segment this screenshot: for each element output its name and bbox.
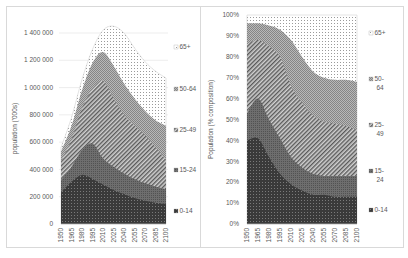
y-tick-label: 800 000: [30, 111, 54, 118]
legend-swatch: [369, 77, 373, 81]
chart-percent-svg: 0%10%20%30%40%50%60%70%80%90%100%Populat…: [201, 7, 405, 249]
x-tick-label: 1950: [243, 228, 250, 243]
legend-swatch: [174, 45, 178, 49]
y-axis-title: population ('000s): [11, 103, 19, 154]
y-tick-label: 1 400 000: [24, 29, 53, 36]
x-tick-label: 2040: [120, 228, 127, 243]
x-tick-label: 2055: [320, 228, 327, 243]
legend-swatch: [369, 208, 373, 212]
y-tick-label: 70%: [226, 74, 239, 81]
x-tick-label: 2055: [131, 228, 138, 243]
legend-label: 65+: [375, 29, 386, 36]
legend-label: 50-: [375, 75, 384, 82]
legend-label: 15-24: [180, 166, 197, 173]
y-tick-label: 1 200 000: [24, 56, 53, 63]
legend-label: 25-: [375, 121, 384, 128]
legend-label: 49: [377, 130, 385, 137]
legend-label: 0-14: [375, 206, 388, 213]
x-tick-label: 2070: [331, 228, 338, 243]
chart-percent-composition: 0%10%20%30%40%50%60%70%80%90%100%Populat…: [200, 6, 404, 248]
legend-label: 50-64: [180, 85, 197, 92]
x-tick-label: 2100: [162, 228, 169, 243]
y-axis-title: Population (% composition): [207, 80, 215, 159]
y-tick-label: 40%: [226, 137, 239, 144]
x-tick-label: 2040: [309, 228, 316, 243]
x-tick-label: 2025: [298, 228, 305, 243]
x-tick-label: 2010: [99, 228, 106, 243]
y-tick-label: 400 000: [30, 166, 54, 173]
y-tick-label: 60%: [226, 95, 239, 102]
chart-absolute-svg: 0200 000400 000600 000800 0001 000 0001 …: [7, 7, 207, 249]
y-tick-label: 1 000 000: [24, 84, 53, 91]
legend-swatch: [174, 128, 178, 132]
x-tick-label: 2070: [141, 228, 148, 243]
legend-label: 15-: [375, 167, 384, 174]
y-tick-label: 20%: [226, 178, 239, 185]
y-tick-label: 600 000: [30, 138, 54, 145]
x-tick-label: 2010: [287, 228, 294, 243]
x-tick-label: 1965: [254, 228, 261, 243]
legend-swatch: [174, 209, 178, 213]
x-tick-label: 1980: [78, 228, 85, 243]
legend-label: 65+: [180, 43, 191, 50]
legend-swatch: [174, 168, 178, 172]
legend-label: 0-14: [180, 207, 193, 214]
legend-swatch: [369, 123, 373, 127]
x-tick-label: 1995: [276, 228, 283, 243]
y-tick-label: 200 000: [30, 193, 54, 200]
x-tick-label: 1995: [89, 228, 96, 243]
x-tick-label: 2025: [110, 228, 117, 243]
y-tick-label: 50%: [226, 116, 239, 123]
legend-label: 25-49: [180, 126, 197, 133]
legend-label: 64: [377, 84, 385, 91]
legend-swatch: [174, 87, 178, 91]
x-tick-label: 2100: [353, 228, 360, 243]
y-tick-label: 100%: [222, 11, 239, 18]
x-tick-label: 1950: [57, 228, 64, 243]
y-tick-label: 0: [49, 220, 53, 227]
legend-swatch: [369, 169, 373, 173]
legend-label: 24: [377, 176, 385, 183]
legend-swatch: [369, 31, 373, 35]
y-tick-label: 90%: [226, 32, 239, 39]
y-tick-label: 0%: [230, 220, 240, 227]
x-tick-label: 2085: [152, 228, 159, 243]
y-tick-label: 10%: [226, 199, 239, 206]
x-tick-label: 1980: [265, 228, 272, 243]
cropped-caption-strip: [0, 0, 408, 5]
y-tick-label: 80%: [226, 53, 239, 60]
chart-absolute-population: 0200 000400 000600 000800 0001 000 0001 …: [6, 6, 206, 248]
y-tick-label: 30%: [226, 158, 239, 165]
x-tick-label: 1965: [68, 228, 75, 243]
x-tick-label: 2085: [342, 228, 349, 243]
